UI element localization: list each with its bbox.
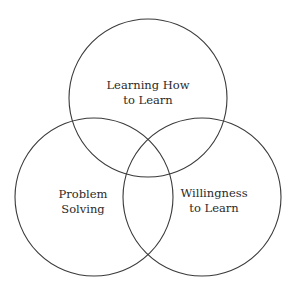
label-top-line-1: Learning How	[106, 78, 189, 92]
label-top-line-2: to Learn	[123, 93, 173, 107]
label-left-line-1: Problem	[59, 187, 108, 201]
venn-diagram: Learning How to Learn Problem Solving Wi…	[0, 0, 295, 293]
label-right-line-2: to Learn	[189, 201, 239, 215]
label-left-line-2: Solving	[61, 202, 105, 216]
label-right-line-1: Willingness	[180, 186, 247, 200]
